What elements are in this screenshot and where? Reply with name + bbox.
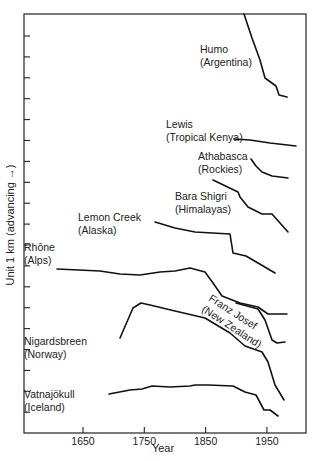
svg-text:Lemon Creek: Lemon Creek	[78, 211, 142, 223]
svg-text:Bara Shigri: Bara Shigri	[175, 190, 227, 202]
x-axis-title: Year	[152, 442, 175, 454]
svg-text:Rhône: Rhône	[24, 241, 55, 253]
svg-text:(Alaska): (Alaska)	[78, 224, 117, 236]
svg-text:(Tropical Kenya): (Tropical Kenya)	[166, 131, 243, 143]
series-label-lewis-tropical-kenya: Lewis(Tropical Kenya)	[166, 118, 243, 143]
series-label-bara-shigri-himalayas: Bara Shigri(Himalayas)	[175, 190, 231, 215]
series-label-rh-ne-alps: Rhône(Alps)	[24, 241, 55, 266]
series-label-humo-argentina: Humo(Argentina)	[200, 43, 252, 68]
series-label-athabasca-rockies: Athabasca(Rockies)	[198, 150, 248, 175]
x-tick-label: 1950	[255, 435, 279, 447]
series-label-nigardsbreen-norway: Nigardsbreen(Norway)	[24, 335, 87, 360]
x-tick-label: 1650	[71, 435, 95, 447]
svg-text:(Rockies): (Rockies)	[198, 163, 242, 175]
series-label-vatnaj-kull-iceland: Vatnajökull(Iceland)	[24, 388, 75, 413]
x-tick-label: 1850	[194, 435, 218, 447]
plot-frame	[24, 14, 306, 433]
y-axis-title: Unit 1 km (advancing →)	[4, 164, 16, 285]
series-labels: Humo(Argentina)Lewis(Tropical Kenya)Atha…	[24, 43, 271, 413]
series-label-lemon-creek-alaska: Lemon Creek(Alaska)	[78, 211, 142, 236]
svg-text:Nigardsbreen: Nigardsbreen	[24, 335, 87, 347]
svg-text:Humo: Humo	[200, 43, 228, 55]
svg-text:(Himalayas): (Himalayas)	[175, 203, 231, 215]
series-line-vatnaj-kull-iceland	[109, 385, 278, 416]
svg-text:(Alps): (Alps)	[24, 254, 51, 266]
glacier-advance-chart: 1650175018501950 Year Unit 1 km (advanci…	[0, 0, 313, 461]
svg-text:(Iceland): (Iceland)	[24, 401, 65, 413]
svg-text:Vatnajökull: Vatnajökull	[24, 388, 75, 400]
series-line-athabasca-rockies	[251, 159, 288, 178]
svg-text:(Norway): (Norway)	[24, 348, 67, 360]
svg-text:Athabasca: Athabasca	[198, 150, 248, 162]
svg-text:(Argentina): (Argentina)	[200, 56, 252, 68]
x-axis-ticks	[83, 427, 267, 433]
series-line-lewis-tropical-kenya	[234, 139, 296, 146]
svg-text:Lewis: Lewis	[166, 118, 193, 130]
series-line-lemon-creek-alaska	[155, 222, 275, 273]
x-axis-tick-labels: 1650175018501950	[71, 435, 278, 447]
